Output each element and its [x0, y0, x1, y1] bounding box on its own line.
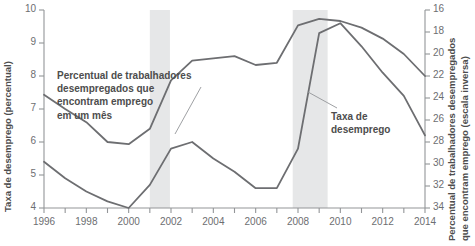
right-axis-tick-label: 26	[433, 113, 459, 124]
job-finding-rate-annotation: Percentual de trabalhadoresdesempregados…	[57, 69, 192, 122]
recession-band-2008	[293, 10, 328, 208]
x-axis-tick-label: 1998	[66, 216, 106, 227]
job-finding-rate-annotation-line-4: em um mês	[57, 109, 192, 122]
x-axis-tick-label: 2008	[278, 216, 318, 227]
right-axis-tick-label: 30	[433, 157, 459, 168]
right-axis-tick-label: 24	[433, 91, 459, 102]
x-axis-tick-label: 2010	[320, 216, 360, 227]
x-axis-tick-label: 2012	[363, 216, 403, 227]
x-axis-tick-label: 2006	[236, 216, 276, 227]
left-axis-tick-label: 6	[10, 135, 36, 146]
x-axis-tick-label: 2014	[405, 216, 445, 227]
chart-plot-area	[0, 0, 475, 246]
left-axis-tick-label: 10	[10, 3, 36, 14]
left-axis-tick-label: 8	[10, 69, 36, 80]
unemployment-rate-annotation-line-2: desemprego	[331, 123, 390, 136]
right-axis-tick-label: 18	[433, 25, 459, 36]
left-axis-tick-label: 9	[10, 36, 36, 47]
right-axis-tick-label: 22	[433, 69, 459, 80]
job-finding-rate-annotation-line-1: Percentual de trabalhadores	[57, 69, 192, 82]
x-axis-tick-label: 2002	[151, 216, 191, 227]
job-finding-rate-annotation-line-2: desempregados que	[57, 82, 192, 95]
job-finding-rate-annotation-line-3: encontram emprego	[57, 95, 192, 108]
right-axis-tick-label: 34	[433, 201, 459, 212]
right-axis-tick-label: 20	[433, 47, 459, 58]
left-axis-tick-label: 5	[10, 168, 36, 179]
left-axis-tick-label: 4	[10, 201, 36, 212]
x-axis-tick-label: 2004	[193, 216, 233, 227]
left-axis-tick-label: 7	[10, 102, 36, 113]
chart-container: Taxa de desemprego (percentual) Percentu…	[0, 0, 475, 246]
x-axis-tick-label: 1996	[24, 216, 64, 227]
right-axis-title-line2: que encontram emprego (escala inversa)	[459, 56, 470, 241]
x-axis-tick-label: 2000	[109, 216, 149, 227]
unemployment-rate-annotation-line-1: Taxa de	[331, 110, 390, 123]
right-axis-tick-label: 16	[433, 3, 459, 14]
unemployment-rate-annotation: Taxa dedesemprego	[331, 110, 390, 136]
right-axis-tick-label: 32	[433, 179, 459, 190]
right-axis-tick-label: 28	[433, 135, 459, 146]
